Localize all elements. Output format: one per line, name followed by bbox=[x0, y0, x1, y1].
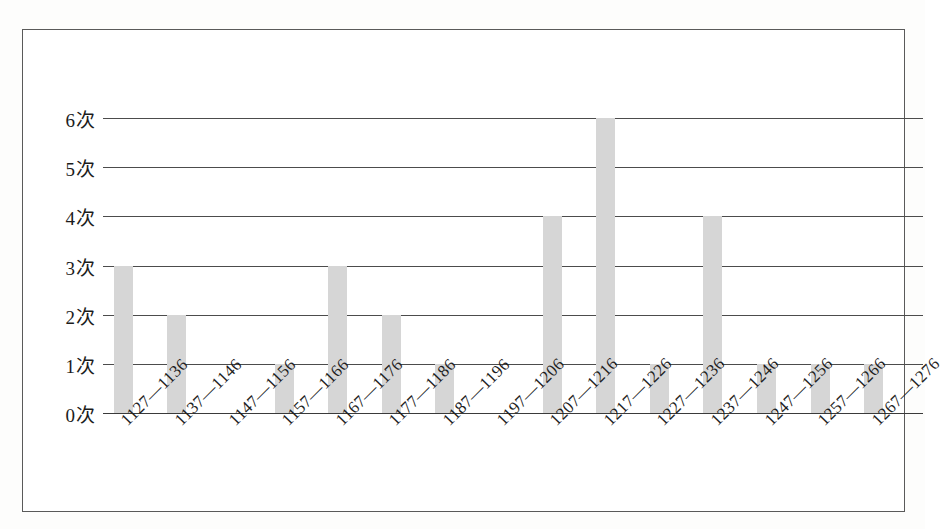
bar bbox=[114, 266, 133, 414]
y-tick-label: 3次 bbox=[66, 252, 96, 279]
y-tick-label: 5次 bbox=[66, 154, 96, 181]
y-tick-label: 6次 bbox=[66, 105, 96, 132]
y-tick-label: 2次 bbox=[66, 301, 96, 328]
x-axis-tick-labels: 1127—11361137—11461147—11561157—11661167… bbox=[103, 416, 923, 529]
y-tick-label: 0次 bbox=[66, 400, 96, 427]
chart-frame: 0次1次2次3次4次5次6次 1127—11361137—11461147—11… bbox=[22, 29, 905, 512]
y-tick-label: 1次 bbox=[66, 350, 96, 377]
y-axis-tick-labels: 0次1次2次3次4次5次6次 bbox=[23, 118, 103, 413]
y-tick-label: 4次 bbox=[66, 203, 96, 230]
